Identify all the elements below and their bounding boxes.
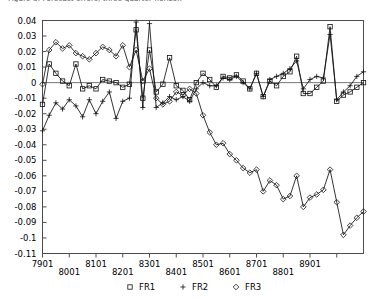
x-axis-tick-label: 7901 (32, 259, 54, 269)
data-point-plus (87, 97, 92, 102)
x-axis-tick-label: 8001 (58, 267, 80, 277)
y-axis-tick-label: 0 (31, 78, 36, 88)
data-series-group (40, 19, 367, 237)
data-point-plus (113, 116, 118, 121)
x-axis-tick-group: 7901800181018201830184018501860187018801… (32, 254, 337, 277)
data-point-plus (314, 74, 319, 79)
data-point-plus (80, 114, 85, 119)
data-point-plus (127, 96, 132, 101)
y-axis-tick-label: -0.1 (20, 233, 37, 243)
legend-item-fr3: FR3 (233, 282, 261, 292)
x-axis-tick-label: 8601 (219, 267, 241, 277)
y-axis-tick-label: 0.03 (18, 31, 37, 41)
y-axis-tick-label: -0.06 (15, 171, 37, 181)
data-point-square (128, 285, 132, 289)
chart-figure: Figure 3. Forecast errors, three quarter… (0, 0, 373, 301)
x-axis-tick-label: 8201 (112, 267, 134, 277)
forecast-error-line-chart: 0.040.030.020.010-0.01-0.02-0.03-0.04-0.… (0, 0, 373, 301)
y-axis-tick-label: -0.07 (15, 186, 37, 196)
legend-label: FR1 (139, 282, 155, 292)
legend-label: FR3 (245, 282, 261, 292)
y-axis-tick-label: 0.04 (18, 16, 37, 26)
series-fr3 (40, 39, 367, 237)
legend-item-fr1: FR1 (128, 282, 155, 292)
y-axis-tick-group: 0.040.030.020.010-0.01-0.02-0.03-0.04-0.… (15, 16, 47, 259)
chart-legend: FR1FR2FR3 (128, 282, 261, 292)
y-axis-tick-label: -0.02 (15, 109, 37, 119)
x-axis-tick-label: 8501 (192, 259, 214, 269)
data-point-plus (140, 105, 145, 110)
data-point-plus (174, 97, 179, 102)
x-axis-tick-label: 8801 (272, 267, 294, 277)
x-axis-tick-label: 8101 (85, 259, 107, 269)
data-point-plus (93, 111, 98, 116)
series-line (43, 27, 364, 105)
data-point-plus (120, 99, 125, 104)
x-axis-tick-label: 8901 (299, 259, 321, 269)
legend-item-fr2: FR2 (180, 282, 208, 292)
data-point-plus (154, 105, 159, 110)
y-axis-tick-label: -0.03 (15, 124, 37, 134)
x-axis-tick-label: 8301 (139, 259, 161, 269)
y-axis-tick-label: -0.09 (15, 217, 37, 227)
x-axis-tick-label: 8401 (165, 267, 187, 277)
series-fr1 (40, 25, 365, 107)
data-point-plus (274, 74, 279, 79)
data-point-plus (147, 21, 152, 26)
data-point-plus (207, 83, 212, 88)
y-axis-tick-label: -0.11 (15, 249, 37, 259)
y-axis-tick-label: -0.05 (15, 155, 37, 165)
legend-label: FR2 (192, 282, 208, 292)
y-axis-tick-label: 0.02 (18, 47, 37, 57)
x-axis-tick-label: 8701 (246, 259, 268, 269)
data-point-plus (47, 113, 52, 118)
data-point-plus (180, 284, 185, 289)
plot-frame (43, 21, 364, 254)
data-point-plus (361, 69, 366, 74)
data-point-diamond (233, 284, 239, 290)
data-point-plus (327, 32, 332, 37)
y-axis-tick-label: 0.01 (18, 62, 37, 72)
y-axis-tick-label: -0.01 (15, 93, 37, 103)
y-axis-tick-label: -0.08 (15, 202, 37, 212)
y-axis-tick-label: -0.04 (15, 140, 37, 150)
